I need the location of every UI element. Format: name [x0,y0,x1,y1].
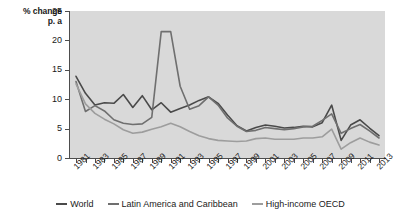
legend-label: Latin America and Caribbean [122,199,238,209]
y-axis-tick [65,129,70,130]
legend-line-swatch-icon [56,203,67,205]
y-axis-line [69,11,70,159]
y-axis-tick [65,40,70,41]
legend-item[interactable]: High-income OECD [252,199,345,209]
y-axis-tick [65,99,70,100]
legend-item[interactable]: World [56,199,93,209]
legend-line-swatch-icon [252,203,263,205]
inflation-line-chart: % change p. a 0510152025 198119831985198… [0,0,401,216]
y-axis-label: 25 [26,7,62,16]
y-axis-label: 0 [26,154,62,163]
series-line [76,76,379,140]
y-axis-tick [65,11,70,12]
legend-item[interactable]: Latin America and Caribbean [108,199,238,209]
y-axis-label: 20 [26,36,62,45]
y-axis-label: 5 [26,124,62,133]
series-line [76,32,379,138]
series-canvas [70,11,385,158]
y-axis-label: 15 [26,65,62,74]
legend-label: World [70,199,93,209]
plot-area [70,11,385,158]
y-axis-title-line-2: p. a [0,16,62,26]
y-axis-label: 10 [26,95,62,104]
y-axis-tick [65,70,70,71]
chart-legend: WorldLatin America and CaribbeanHigh-inc… [0,197,401,211]
legend-line-swatch-icon [108,203,119,205]
y-axis-tick [65,158,70,159]
legend-label: High-income OECD [266,199,345,209]
